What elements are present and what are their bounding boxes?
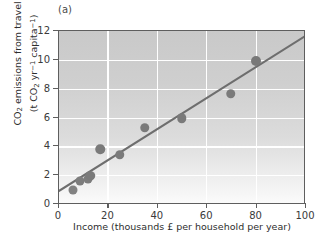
data-point xyxy=(226,89,236,99)
x-tick-40 xyxy=(157,203,158,208)
y-tick-4 xyxy=(53,145,58,146)
x-tick-80 xyxy=(256,203,257,208)
x-tick-label-20: 20 xyxy=(101,210,114,221)
y-tick-label-2: 2 xyxy=(44,169,50,180)
plot-area xyxy=(58,30,305,203)
y-tick-6 xyxy=(53,117,58,118)
figure-panel-a: (a) CO2 emissions from travel(t CO2 yr−1… xyxy=(0,0,330,245)
y-tick-label-10: 10 xyxy=(37,53,50,64)
x-tick-label-0: 0 xyxy=(55,210,61,221)
x-tick-label-100: 100 xyxy=(295,210,314,221)
y-tick-label-12: 12 xyxy=(37,25,50,36)
data-point xyxy=(95,144,105,154)
x-tick-label-40: 40 xyxy=(150,210,163,221)
x-tick-60 xyxy=(206,203,207,208)
y-tick-10 xyxy=(53,59,58,60)
data-point xyxy=(115,150,125,160)
data-point xyxy=(177,113,187,123)
x-tick-0 xyxy=(58,203,59,208)
y-tick-12 xyxy=(53,30,58,31)
y-tick-label-8: 8 xyxy=(44,82,50,93)
data-point xyxy=(140,123,150,133)
y-tick-8 xyxy=(53,88,58,89)
panel-label: (a) xyxy=(58,4,72,15)
y-axis-line xyxy=(58,30,59,204)
y-tick-label-4: 4 xyxy=(44,140,50,151)
y-tick-2 xyxy=(53,174,58,175)
x-tick-label-60: 60 xyxy=(200,210,213,221)
y-axis-ticks: 0 2 4 6 8 10 12 xyxy=(0,30,58,203)
y-tick-label-6: 6 xyxy=(44,111,50,122)
x-tick-20 xyxy=(107,203,108,208)
data-point xyxy=(68,186,77,195)
x-tick-label-80: 80 xyxy=(249,210,262,221)
x-tick-100 xyxy=(305,203,306,208)
x-axis-label: Income (thousands £ per household per ye… xyxy=(58,221,306,232)
data-point xyxy=(251,56,261,66)
y-tick-label-0: 0 xyxy=(44,198,50,209)
data-point xyxy=(85,171,95,181)
